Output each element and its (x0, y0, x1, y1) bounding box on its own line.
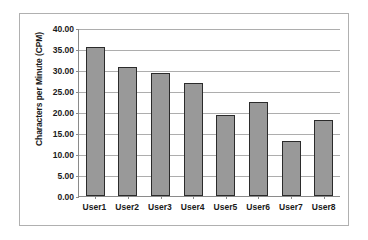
x-axis-tick-mark (226, 196, 227, 199)
x-axis-tick-label: User6 (242, 202, 275, 212)
bar[interactable] (184, 83, 203, 196)
plot-area (78, 29, 340, 197)
x-axis-tick-label: User8 (307, 202, 340, 212)
y-axis-tick-mark (76, 197, 79, 198)
y-axis-tick-labels: 40.0035.0030.0025.0020.0015.0010.005.000… (34, 29, 74, 197)
bar-slot (275, 29, 308, 196)
y-axis-tick-label: 40.00 (34, 24, 74, 34)
x-axis-tick-label: User5 (209, 202, 242, 212)
y-axis-tick-label: 0.00 (34, 192, 74, 202)
y-axis-tick-label: 15.00 (34, 129, 74, 139)
x-axis-tick-mark (128, 196, 129, 199)
x-axis-tick-mark (291, 196, 292, 199)
x-axis-tick-mark (324, 196, 325, 199)
bar[interactable] (282, 141, 301, 196)
bar[interactable] (86, 47, 105, 196)
x-axis-tick-mark (95, 196, 96, 199)
x-axis-tick-label: User2 (111, 202, 144, 212)
bar[interactable] (151, 73, 170, 196)
y-axis-tick-label: 25.00 (34, 87, 74, 97)
x-axis-tick-label: User3 (144, 202, 177, 212)
bar-slot (79, 29, 112, 196)
bar-slot (210, 29, 243, 196)
bar[interactable] (118, 67, 137, 196)
y-axis-tick-label: 10.00 (34, 150, 74, 160)
x-axis-tick-label: User4 (176, 202, 209, 212)
y-axis-tick-label: 30.00 (34, 66, 74, 76)
bar-slot (307, 29, 340, 196)
y-axis-tick-label: 20.00 (34, 108, 74, 118)
bar[interactable] (249, 102, 268, 196)
x-axis-tick-label: User1 (78, 202, 111, 212)
bar-slot (242, 29, 275, 196)
y-axis-tick-label: 5.00 (34, 171, 74, 181)
bar-slot (144, 29, 177, 196)
x-axis-tick-mark (258, 196, 259, 199)
x-axis-tick-mark (161, 196, 162, 199)
bar-series (79, 29, 340, 196)
bar-slot (177, 29, 210, 196)
y-axis-tick-label: 35.00 (34, 45, 74, 55)
x-axis-tick-label: User7 (275, 202, 308, 212)
bar[interactable] (314, 120, 333, 196)
chart-frame: Characters per Minute (CPM) 40.0035.0030… (19, 13, 349, 226)
x-axis-tick-mark (193, 196, 194, 199)
bar-slot (112, 29, 145, 196)
bar[interactable] (216, 115, 235, 196)
x-axis-tick-labels: User1User2User3User4User5User6User7User8 (78, 202, 340, 212)
